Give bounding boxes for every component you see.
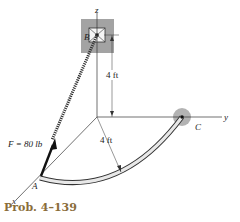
point-b-label: B (84, 32, 90, 42)
point-a-label: A (31, 181, 38, 191)
x-axis (16, 117, 97, 200)
height-dimension-label: 4 ft (106, 70, 119, 80)
diagram-canvas: z y x B C A 4 ft 4 ft F = 80 lb (0, 0, 240, 222)
curved-rod (40, 117, 182, 183)
problem-caption: Prob. 4–139 (4, 201, 77, 214)
radius-dimension-label: 4 ft (100, 135, 113, 145)
arrowhead-icon (50, 138, 57, 150)
point-c-label: C (195, 122, 202, 132)
force-label: F = 80 lb (7, 139, 43, 149)
y-axis-label: y (223, 112, 228, 122)
z-axis-label: z (94, 5, 99, 15)
